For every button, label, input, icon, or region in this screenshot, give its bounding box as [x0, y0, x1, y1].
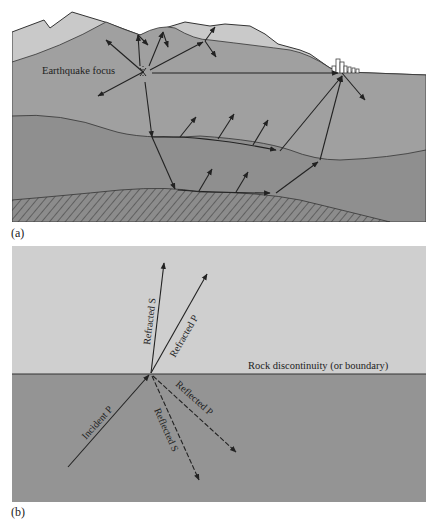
lower-medium — [12, 374, 426, 502]
city-buildings-icon — [332, 59, 359, 73]
upper-medium — [12, 246, 426, 374]
panel-a-cross-section: Earthquake focus — [12, 12, 426, 222]
earthquake-focus-label: Earthquake focus — [42, 65, 115, 76]
panel-a-label: (a) — [11, 226, 24, 241]
panel-b-label: (b) — [11, 505, 25, 520]
boundary-label: Rock discontinuity (or boundary) — [248, 360, 389, 372]
seismic-wave-figure: Earthquake focus Refracted S Refracted P… — [0, 0, 434, 525]
panel-b-wave-boundary: Refracted S Refracted P Incident P Refle… — [12, 246, 426, 502]
